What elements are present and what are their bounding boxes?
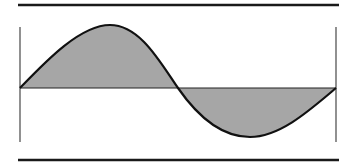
diagram-svg bbox=[0, 0, 351, 163]
negative-half-fill bbox=[178, 88, 336, 137]
positive-half-fill bbox=[20, 25, 178, 88]
sine-wave-diagram bbox=[0, 0, 351, 163]
